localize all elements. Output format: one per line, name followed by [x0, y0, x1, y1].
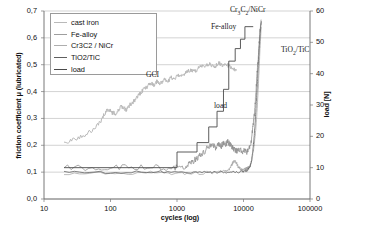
legend-label-fe-alloy: Fe-alloy [71, 30, 97, 39]
legend-label-load: load [71, 65, 85, 74]
annotation-gci: GCI [146, 70, 159, 79]
annotation-cr3c2-tail: /NiCr [248, 5, 265, 14]
legend-item-tio2-tic: TiO2/TiC [54, 52, 156, 64]
annotation-tio2-prefix: TiO [281, 45, 293, 54]
legend-swatch-fe-alloy [54, 34, 67, 35]
secondary-y-tick-label: 50 [316, 37, 340, 46]
x-tick-label: 10000 [224, 204, 264, 213]
annotation-tio2-tail: /TiC [296, 45, 310, 54]
x-axis-title: cycles (log) [115, 213, 245, 222]
legend-swatch-cr3c2-nicr [54, 45, 67, 46]
secondary-y-tick-label: 20 [316, 131, 340, 140]
legend-swatch-cast-iron [54, 22, 67, 23]
legend-label-cast-iron: cast iron [71, 18, 99, 27]
chart-legend: cast iron Fe-alloy Cr3C2 / NiCr TiO2/TiC… [50, 13, 157, 75]
annotation-cr3c2-nicr: Cr3C2/NiCr [230, 5, 266, 16]
legend-item-load: load [54, 63, 156, 75]
legend-item-fe-alloy: Fe-alloy [54, 29, 156, 41]
secondary-y-tick-label: 60 [316, 6, 340, 15]
x-tick-label: 10 [24, 204, 64, 213]
y-tick-label: 0,0 [13, 194, 37, 203]
x-tick-label: 100000 [290, 204, 330, 213]
secondary-y-tick-label: 10 [316, 163, 340, 172]
legend-swatch-tio2-tic [54, 57, 67, 58]
secondary-y-tick-label: 0 [316, 194, 340, 203]
secondary-y-tick-label: 40 [316, 69, 340, 78]
annotation-tio2-tic: TiO2/TiC [281, 45, 309, 56]
y-tick-label: 0,6 [13, 33, 37, 42]
legend-label-cr3c2-nicr: Cr3C2 / NiCr [71, 41, 113, 50]
y-tick-label: 0,5 [13, 60, 37, 69]
legend-item-cast-iron: cast iron [54, 17, 156, 29]
y-tick-label: 0,1 [13, 167, 37, 176]
y-tick-label: 0,7 [13, 6, 37, 15]
legend-item-cr3c2-nicr: Cr3C2 / NiCr [54, 40, 156, 52]
annotation-cr3c2-prefix: Cr [230, 5, 238, 14]
x-tick-label: 100 [91, 204, 131, 213]
y-tick-label: 0,2 [13, 140, 37, 149]
y-axis-title: friction coefficient μ (lubricated) [14, 32, 23, 180]
annotation-load: load [214, 101, 227, 110]
y-tick-label: 0,4 [13, 87, 37, 96]
secondary-y-tick-label: 30 [316, 100, 340, 109]
y-tick-label: 0,3 [13, 113, 37, 122]
legend-swatch-load [54, 69, 67, 70]
x-tick-label: 1000 [157, 204, 197, 213]
annotation-fe-alloy: Fe-alloy [211, 22, 236, 31]
legend-label-tio2-tic: TiO2/TiC [71, 53, 100, 62]
